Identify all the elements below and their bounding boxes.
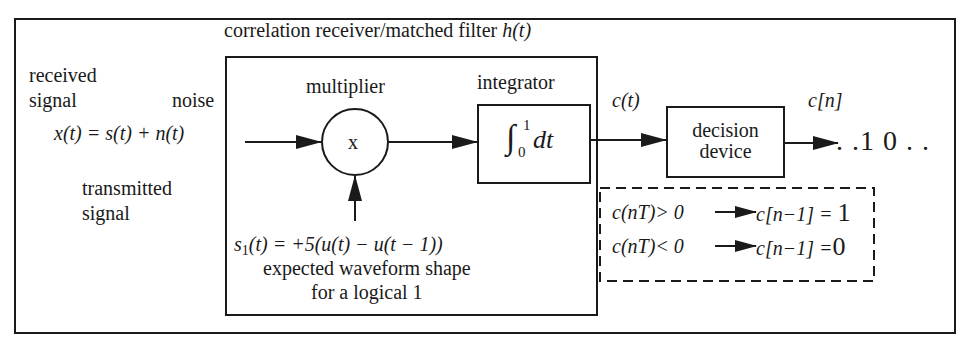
reference-description-2: for a logical 1 [311, 282, 423, 302]
reference-signal-name: s [234, 233, 242, 255]
input-equation: x(t) = s(t) + n(t) [54, 123, 184, 143]
rule-1-condition: c(nT)> 0 [612, 202, 684, 222]
multiplier-label: multiplier [306, 76, 385, 96]
decision-output-label: c[n] [808, 90, 842, 110]
decision-device-line-1: decision [667, 120, 784, 141]
rule-2-condition: c(nT)< 0 [612, 236, 684, 256]
noise-label: noise [172, 90, 214, 110]
decision-output-bits: . .1 0 . . [836, 127, 930, 155]
reference-signal-subscript: 1 [242, 243, 249, 258]
rule-2-result: c[n−1] =0 [756, 234, 845, 260]
diagram-canvas [0, 0, 962, 342]
integrator-expression: ∫ 1 0 dt [506, 118, 576, 168]
reference-signal-equation: (t) = +5(u(t) − u(t − 1)) [249, 233, 443, 255]
decision-device-label: decision device [667, 120, 784, 162]
title-text: correlation receiver/matched filter [224, 19, 497, 41]
received-signal-label-1: received [29, 65, 97, 85]
integrator-label: integrator [477, 72, 555, 92]
multiplier-symbol: x [348, 132, 358, 152]
rule-2-result-text: c[n−1] = [756, 237, 832, 259]
title-function: h(t) [502, 19, 531, 41]
rule-1-value: 1 [837, 198, 850, 227]
rule-2-value: 0 [832, 232, 845, 261]
decision-device-line-2: device [667, 141, 784, 162]
integral-upper-limit: 1 [523, 118, 531, 133]
correlator-output-label: c(t) [612, 90, 640, 110]
transmitted-signal-label-2: signal [82, 203, 130, 223]
transmitted-signal-label-1: transmitted [82, 178, 172, 198]
reference-equation: s1(t) = +5(u(t) − u(t − 1)) [234, 234, 443, 254]
rule-1-result-text: c[n−1] = [756, 203, 837, 225]
received-signal-label-2: signal [29, 90, 77, 110]
integral-body: dt [533, 127, 553, 153]
rule-1-result: c[n−1] = 1 [756, 200, 850, 226]
integral-sign: ∫ [506, 120, 515, 154]
integral-lower-limit: 0 [518, 145, 526, 160]
reference-description-1: expected waveform shape [263, 258, 471, 278]
diagram-title: correlation receiver/matched filter h(t) [224, 20, 531, 40]
